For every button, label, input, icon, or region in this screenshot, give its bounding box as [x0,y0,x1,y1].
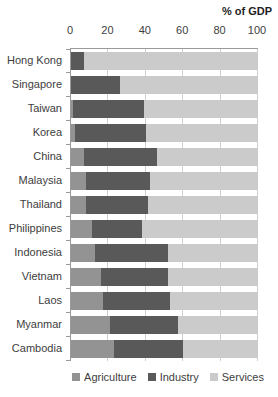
y-tick-mark [66,240,70,241]
bar-segment-agriculture [71,220,92,238]
y-tick-mark [66,216,70,217]
category-label: Hong Kong [0,48,62,72]
bar-segment-services [84,52,258,70]
bar-row [71,289,258,313]
stacked-bar [71,292,258,310]
stacked-bar-chart-figure: % of GDP 020406080100 Hong KongSingapore… [0,0,278,397]
bar-segment-industry [110,316,177,334]
bar-segment-services [148,196,258,214]
category-label: Laos [0,288,62,312]
bar-segment-agriculture [71,172,86,190]
stacked-bar [71,52,258,70]
bar-row [71,121,258,145]
bar-segment-services [157,148,258,166]
y-tick-mark [66,192,70,193]
plot-area [70,48,258,361]
legend-swatch [210,373,218,381]
y-tick-mark [66,264,70,265]
y-tick-mark [66,288,70,289]
bar-segment-industry [86,196,148,214]
y-tick-mark [66,144,70,145]
legend-swatch [72,373,80,381]
y-tick-mark [66,360,70,361]
stacked-bar [71,340,258,358]
bar-segment-industry [73,100,144,118]
category-label: Philippines [0,216,62,240]
bar-row [71,265,258,289]
y-tick-mark [66,120,70,121]
bar-segment-agriculture [71,292,103,310]
category-label: Indonesia [0,240,62,264]
bar-row [71,145,258,169]
bar-segment-services [183,340,258,358]
bar-segment-services [142,220,258,238]
category-label: Vietnam [0,264,62,288]
chart-title: % of GDP [222,5,272,17]
x-tick-label: 100 [248,24,266,36]
stacked-bar [71,148,258,166]
bar-segment-agriculture [71,148,84,166]
bar-segment-industry [71,52,84,70]
category-label: Taiwan [0,96,62,120]
stacked-bar [71,124,258,142]
bar-segment-agriculture [71,316,110,334]
y-tick-mark [66,168,70,169]
bar-row [71,193,258,217]
legend-swatch [148,373,156,381]
y-tick-mark [66,96,70,97]
legend-label: Services [222,371,264,383]
bar-row [71,241,258,265]
bar-segment-industry [84,148,157,166]
legend-label: Agriculture [84,371,137,383]
bar-segment-industry [103,292,170,310]
category-label: Cambodia [0,336,62,360]
bar-segment-services [178,316,258,334]
stacked-bar [71,100,258,118]
y-tick-mark [66,336,70,337]
bar-segment-services [150,172,258,190]
stacked-bar [71,220,258,238]
stacked-bar [71,76,258,94]
stacked-bar [71,196,258,214]
x-axis-tick-labels: 020406080100 [70,24,257,38]
x-tick-label: 60 [176,24,188,36]
x-tick-label: 0 [67,24,73,36]
stacked-bar [71,172,258,190]
legend-label: Industry [160,371,199,383]
bar-row [71,313,258,337]
bar-segment-services [146,124,258,142]
bar-segment-services [170,292,258,310]
bar-segment-industry [71,76,120,94]
category-label: Myanmar [0,312,62,336]
y-tick-mark [66,49,70,50]
bar-segment-services [168,244,258,262]
stacked-bar [71,316,258,334]
bar-segment-industry [75,124,146,142]
category-axis-labels: Hong KongSingaporeTaiwanKoreaChinaMalays… [0,48,62,360]
x-tick-label: 80 [213,24,225,36]
stacked-bar [71,244,258,262]
bar-row [71,49,258,73]
stacked-bar [71,268,258,286]
bar-segment-services [120,76,258,94]
bar-row [71,97,258,121]
legend: AgricultureIndustryServices [58,371,278,383]
bar-segment-industry [92,220,142,238]
bar-segment-agriculture [71,340,114,358]
bar-segment-industry [95,244,168,262]
bar-segment-services [144,100,258,118]
bar-segment-agriculture [71,196,86,214]
bar-segment-industry [86,172,150,190]
legend-item: Industry [148,371,199,383]
category-label: Singapore [0,72,62,96]
bar-segment-services [168,268,258,286]
legend-item: Agriculture [72,371,137,383]
y-tick-mark [66,72,70,73]
x-tick-label: 20 [101,24,113,36]
bar-row [71,217,258,241]
bar-segment-industry [101,268,168,286]
bar-segment-industry [114,340,183,358]
bar-segment-agriculture [71,244,95,262]
bar-row [71,169,258,193]
bar-row [71,337,258,361]
